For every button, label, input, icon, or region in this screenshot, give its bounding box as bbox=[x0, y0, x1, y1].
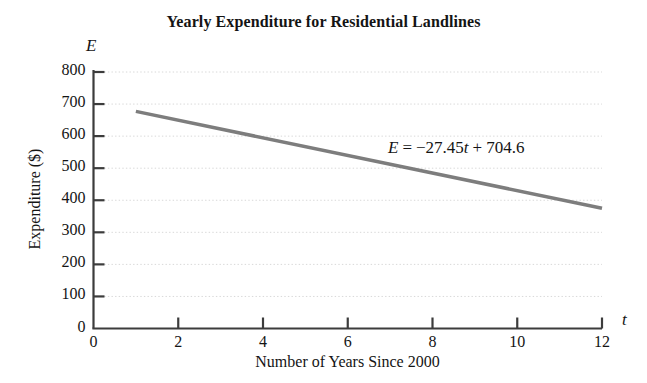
x-tick-label: 0 bbox=[74, 333, 114, 351]
y-tick-label: 300 bbox=[38, 221, 86, 239]
equation-slope-variable: t bbox=[464, 138, 469, 157]
gridlines bbox=[94, 72, 603, 296]
y-tick-label: 800 bbox=[38, 61, 86, 79]
x-tick-label: 12 bbox=[582, 333, 622, 351]
equation-intercept: 704.6 bbox=[486, 138, 524, 157]
x-tick-label: 8 bbox=[413, 333, 453, 351]
data-series-group bbox=[136, 111, 602, 208]
y-tick-marks bbox=[94, 72, 105, 296]
y-tick-label: 200 bbox=[38, 253, 86, 271]
x-tick-marks bbox=[178, 318, 602, 329]
equation-annotation: E=−27.45t+704.6 bbox=[388, 138, 524, 158]
equation-equals: = bbox=[398, 138, 416, 157]
equation-minus-sign: − bbox=[416, 138, 426, 157]
x-tick-label: 4 bbox=[243, 333, 283, 351]
y-tick-label: 400 bbox=[38, 189, 86, 207]
y-tick-label: 100 bbox=[38, 285, 86, 303]
chart-figure: Yearly Expenditure for Residential Landl… bbox=[0, 0, 647, 383]
y-tick-label: 600 bbox=[38, 125, 86, 143]
equation-plus-sign: + bbox=[469, 138, 487, 157]
x-tick-label: 2 bbox=[158, 333, 198, 351]
equation-slope: 27.45 bbox=[426, 138, 464, 157]
y-tick-label: 700 bbox=[38, 93, 86, 111]
equation-lhs: E bbox=[388, 138, 398, 157]
axis-lines bbox=[92, 70, 602, 329]
y-tick-label: 500 bbox=[38, 157, 86, 175]
x-tick-label: 10 bbox=[497, 333, 537, 351]
data-line bbox=[136, 111, 602, 208]
plot-area bbox=[0, 0, 647, 383]
x-tick-label: 6 bbox=[328, 333, 368, 351]
